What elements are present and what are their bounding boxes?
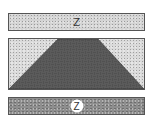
middle-layer-block <box>8 38 145 90</box>
bottom-layer-label: Z <box>70 100 83 113</box>
top-layer-band: Z <box>8 13 145 31</box>
trapezoid-shape <box>9 39 144 89</box>
top-layer-label: Z <box>73 17 80 28</box>
bottom-layer-band: Z <box>8 97 145 115</box>
